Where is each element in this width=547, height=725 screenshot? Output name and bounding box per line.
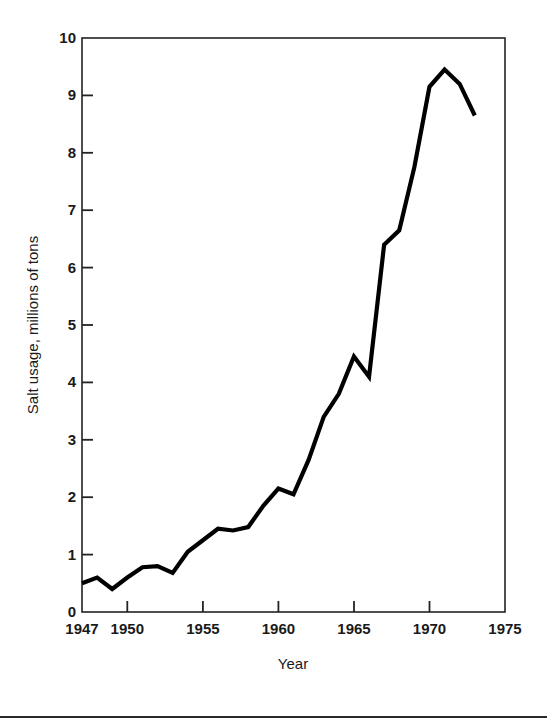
- x-tick-label: 1965: [337, 620, 370, 637]
- x-tick-label: 1947: [65, 620, 98, 637]
- y-tick-label: 5: [68, 316, 76, 333]
- y-tick-label: 1: [68, 546, 76, 563]
- x-tick-label: 1960: [262, 620, 295, 637]
- y-tick-label: 0: [68, 603, 76, 620]
- y-axis-title: Salt usage, millions of tons: [24, 236, 41, 414]
- y-tick-label: 2: [68, 488, 76, 505]
- figure-container: 10 9 8 7 6 5 4 3 2 1 0 1947 1950 1955 19…: [0, 0, 547, 725]
- y-tick-label: 4: [68, 373, 77, 390]
- data-series-line: [82, 70, 475, 589]
- plot-frame: [82, 38, 505, 612]
- x-tick-label: 1970: [413, 620, 446, 637]
- x-axis-ticks: [127, 601, 429, 612]
- y-tick-label: 8: [68, 144, 76, 161]
- y-tick-label: 9: [68, 86, 76, 103]
- x-tick-label: 1950: [111, 620, 144, 637]
- y-tick-label: 7: [68, 201, 76, 218]
- y-tick-labels: 10 9 8 7 6 5 4 3 2 1 0: [59, 29, 76, 620]
- x-tick-labels: 1947 1950 1955 1960 1965 1970 1975: [65, 620, 521, 637]
- y-tick-label: 3: [68, 431, 76, 448]
- y-tick-label: 10: [59, 29, 76, 46]
- x-tick-label: 1975: [488, 620, 521, 637]
- y-axis-ticks: [82, 95, 93, 554]
- line-chart: 10 9 8 7 6 5 4 3 2 1 0 1947 1950 1955 19…: [0, 0, 547, 725]
- x-tick-label: 1955: [186, 620, 219, 637]
- y-tick-label: 6: [68, 259, 76, 276]
- x-axis-title: Year: [278, 655, 308, 672]
